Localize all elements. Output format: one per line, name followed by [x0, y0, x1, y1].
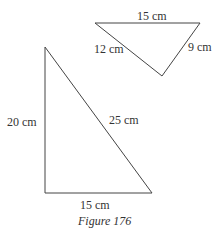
figure-caption: Figure 176 [77, 214, 131, 228]
large-triangle-vertical-label: 20 cm [7, 115, 37, 129]
large-triangle-base-label: 15 cm [80, 198, 110, 212]
small-triangle-right-label: 9 cm [188, 40, 212, 54]
small-triangle: 15 cm 12 cm 9 cm [94, 9, 212, 76]
large-triangle: 20 cm 25 cm 15 cm [7, 47, 152, 212]
figure-176: 15 cm 12 cm 9 cm 20 cm 25 cm 15 cm Figur… [0, 0, 224, 236]
small-triangle-top-label: 15 cm [137, 9, 167, 23]
large-triangle-hypotenuse-label: 25 cm [109, 113, 139, 127]
small-triangle-left-label: 12 cm [94, 42, 124, 56]
